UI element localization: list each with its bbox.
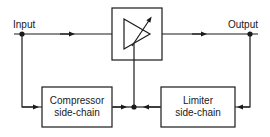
output-to-limiter-line [235, 34, 250, 107]
limiter-label-line1: Limiter [161, 95, 235, 107]
input-to-compressor-line [22, 34, 42, 107]
input-node [19, 31, 24, 36]
amplifier-icon [124, 19, 150, 49]
output-label: Output [228, 19, 258, 30]
control-junction-node [131, 104, 136, 109]
compressor-label: Compressor side-chain [42, 95, 112, 119]
compressor-label-line1: Compressor [42, 95, 112, 107]
compressor-label-line2: side-chain [42, 107, 112, 119]
limiter-label: Limiter side-chain [161, 95, 235, 119]
input-label: Input [13, 19, 35, 30]
output-node [247, 31, 252, 36]
vca-block [112, 8, 162, 60]
limiter-label-line2: side-chain [161, 107, 235, 119]
